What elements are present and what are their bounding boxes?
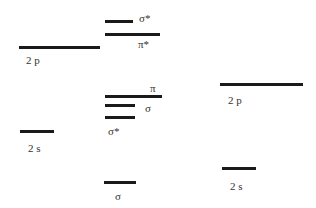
right-2p-label: 2 p	[228, 95, 242, 106]
mo-sigma-2p-label: σ	[145, 103, 151, 114]
mo-sigma-2s-label: σ	[115, 191, 121, 202]
mo-pi-2p-label: π	[150, 83, 156, 94]
right-2s-level	[222, 167, 256, 170]
mo-diagram: 2 p 2 s σ* π* π σ σ* σ 2 p 2 s	[0, 0, 316, 208]
mo-pi-star-2p-label: π*	[138, 39, 149, 50]
left-2s-label: 2 s	[28, 143, 41, 154]
mo-sigma-star-2p-level	[105, 20, 133, 23]
mo-sigma-2s-level	[104, 181, 136, 184]
mo-pi-2p-level	[105, 95, 162, 98]
right-2p-level	[220, 83, 303, 86]
mo-sigma-2p-level	[105, 104, 135, 107]
left-2p-label: 2 p	[26, 55, 40, 66]
mo-sigma-star-2s-label: σ*	[108, 126, 119, 137]
mo-sigma-star-2p-label: σ*	[139, 13, 150, 24]
left-2p-level	[19, 46, 100, 49]
mo-sigma-star-2s-level	[105, 116, 135, 119]
left-2s-level	[20, 130, 54, 133]
mo-pi-star-2p-level	[105, 33, 160, 36]
right-2s-label: 2 s	[230, 181, 243, 192]
